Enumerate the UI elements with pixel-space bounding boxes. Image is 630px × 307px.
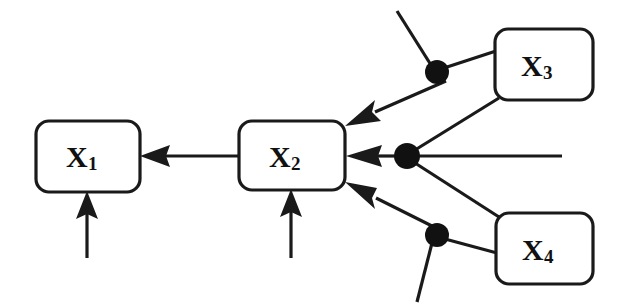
- edge-free-into-bottom-junction: [417, 243, 432, 302]
- edge-bottom-junction-to-x2: [376, 198, 432, 226]
- arrowhead-middle-junction-to-x2: [346, 145, 382, 167]
- diagram-canvas: X 1 X 2 X 3 X 4: [0, 0, 630, 307]
- node-x2[interactable]: X 2: [239, 121, 345, 190]
- node-x1-subscript: 1: [88, 153, 98, 174]
- junction-dot-bottom[interactable]: [425, 223, 449, 247]
- node-x1[interactable]: X 1: [36, 121, 140, 192]
- node-x4-label: X: [522, 233, 544, 266]
- junction-dot-top[interactable]: [425, 60, 449, 84]
- edge-x3-to-middle-junction: [415, 98, 499, 150]
- node-x3[interactable]: X 3: [495, 29, 593, 100]
- node-x2-subscript: 2: [291, 153, 301, 174]
- edge-x4-to-bottom-junction: [445, 239, 497, 253]
- junction-group: [394, 60, 449, 247]
- arrowhead-x2-to-x1: [140, 145, 170, 167]
- node-x3-subscript: 3: [543, 62, 553, 83]
- edge-x4-to-middle-junction: [415, 163, 499, 217]
- node-x2-label: X: [269, 140, 291, 173]
- node-x3-label: X: [521, 49, 543, 82]
- edge-free-into-top-junction: [397, 11, 431, 65]
- node-x1-label: X: [66, 140, 88, 173]
- diagram-svg: X 1 X 2 X 3 X 4: [0, 0, 630, 307]
- node-x4[interactable]: X 4: [496, 213, 593, 284]
- edge-x3-to-top-junction: [444, 51, 496, 68]
- node-x4-subscript: 4: [544, 246, 554, 267]
- arrowhead-bottom-junction-to-x2: [345, 182, 377, 209]
- edge-top-junction-to-x2: [375, 81, 446, 112]
- junction-dot-middle[interactable]: [394, 143, 420, 169]
